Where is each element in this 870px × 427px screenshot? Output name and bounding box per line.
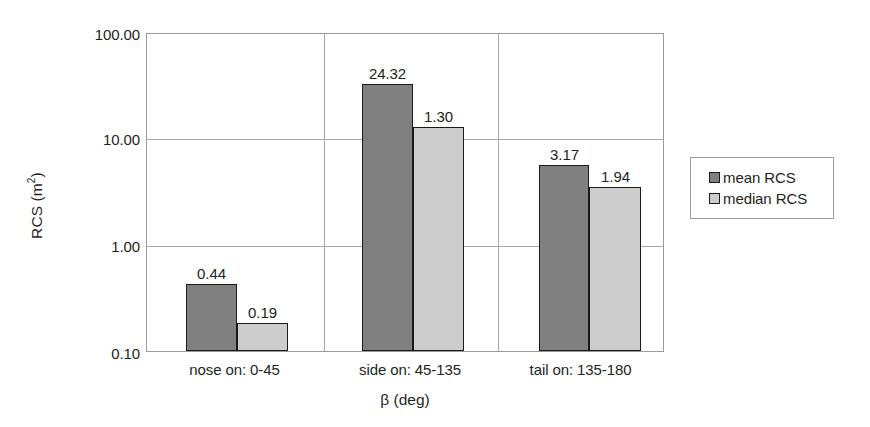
y-tick-label: 0.10 <box>66 346 140 361</box>
y-axis-title-text: RCS (m <box>28 183 45 239</box>
category-divider-2 <box>498 34 499 351</box>
bar-value-label-mean-tail-on: 3.17 <box>529 147 600 162</box>
bar-value-label-mean-nose-on: 0.44 <box>176 266 247 281</box>
legend-item-mean-rcs: mean RCS <box>691 167 833 188</box>
y-tick-label: 100.00 <box>66 27 140 42</box>
bar-value-label-mean-side-on: 24.32 <box>347 66 428 81</box>
bar-median-side-on <box>413 127 464 351</box>
bar-mean-side-on <box>362 84 413 351</box>
legend-label-mean: mean RCS <box>723 170 796 185</box>
bar-value-label-median-nose-on: 0.19 <box>227 305 298 320</box>
x-tick-label-side-on: side on: 45-135 <box>323 361 497 378</box>
legend-swatch-icon-median <box>709 193 720 204</box>
y-axis-title: RCS (m2) <box>26 136 45 276</box>
legend-item-median-rcs: median RCS <box>691 188 833 209</box>
y-axis-tick-labels: 100.00 10.00 1.00 0.10 <box>62 0 140 427</box>
bar-median-tail-on <box>589 187 641 351</box>
x-tick-label-nose-on: nose on: 0-45 <box>146 361 323 378</box>
category-divider-1 <box>324 34 325 351</box>
x-axis-title: β (deg) <box>146 391 664 409</box>
y-tick-label: 1.00 <box>66 239 140 254</box>
rcs-bar-chart: RCS (m2) 100.00 10.00 1.00 0.10 0.44 0.1… <box>0 0 870 427</box>
legend-label-median: median RCS <box>723 191 807 206</box>
bar-mean-tail-on <box>539 165 589 351</box>
y-tick-label: 10.00 <box>66 132 140 147</box>
bar-value-label-median-side-on: 1.30 <box>403 109 474 124</box>
bar-value-label-median-tail-on: 1.94 <box>580 169 651 184</box>
bar-median-nose-on <box>237 323 288 351</box>
x-tick-label-tail-on: tail on: 135-180 <box>497 361 664 378</box>
plot-area: 0.44 0.19 24.32 1.30 3.17 1.94 <box>146 33 664 352</box>
legend: mean RCS median RCS <box>690 157 834 219</box>
y-axis-title-superscript: 2 <box>26 178 37 184</box>
y-axis-title-tail: ) <box>28 172 45 177</box>
legend-swatch-icon-mean <box>709 172 720 183</box>
